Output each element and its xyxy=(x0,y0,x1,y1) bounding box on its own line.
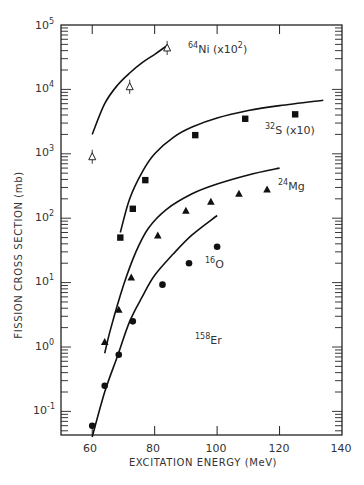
y-tick-label: 100 xyxy=(35,338,54,353)
circle-marker xyxy=(89,422,96,429)
theory-curves xyxy=(92,46,323,438)
axis-ticks xyxy=(61,25,342,435)
theory-curve xyxy=(120,100,323,232)
x-tick-labels: 60 80 100 120 140 xyxy=(83,442,352,455)
annotation-s32: 32S (x10) xyxy=(265,122,315,137)
x-tick-label: 60 xyxy=(83,442,97,455)
open-triangle-marker xyxy=(89,153,96,160)
y-tick-labels: 10-1 100 101 102 103 104 105 xyxy=(33,17,55,417)
annotation-o16: 16O xyxy=(205,256,224,271)
triangle-marker xyxy=(154,231,162,238)
y-tick-label: 101 xyxy=(35,273,54,288)
x-tick-label: 120 xyxy=(269,442,290,455)
x-tick-label: 100 xyxy=(206,442,227,455)
fission-cross-section-chart: 60 80 100 120 140 10-1 100 101 102 103 1… xyxy=(0,0,364,485)
square-marker xyxy=(192,132,198,138)
plot-frame xyxy=(61,25,342,435)
square-marker xyxy=(242,116,248,122)
triangle-marker xyxy=(263,185,271,192)
square-marker xyxy=(130,206,136,212)
y-tick-label: 102 xyxy=(35,209,54,224)
square-marker xyxy=(292,111,298,117)
triangle-marker xyxy=(127,274,135,281)
y-tick-label: 105 xyxy=(35,17,54,32)
annotation-er158: 158Er xyxy=(195,332,222,347)
annotation-mg24: 24Mg xyxy=(278,178,305,193)
square-marker xyxy=(142,177,148,183)
triangle-marker xyxy=(182,207,190,214)
x-tick-label: 140 xyxy=(331,442,352,455)
x-axis-title: EXCITATION ENERGY (MeV) xyxy=(129,457,277,468)
circle-marker xyxy=(159,281,166,288)
annotation-ni64: 64Ni (x102) xyxy=(188,41,247,56)
circle-marker xyxy=(101,382,108,389)
data-points xyxy=(89,41,299,429)
y-axis-title: FISSION CROSS SECTION (mb) xyxy=(13,171,24,338)
circle-marker xyxy=(186,260,193,267)
square-marker xyxy=(117,234,123,240)
circle-marker xyxy=(214,243,221,250)
open-triangle-marker xyxy=(126,83,133,90)
x-tick-label: 80 xyxy=(146,442,160,455)
circle-marker xyxy=(130,318,137,325)
y-tick-label: 10-1 xyxy=(33,402,55,417)
y-tick-label: 103 xyxy=(35,144,54,159)
circle-marker xyxy=(115,351,122,358)
y-tick-label: 104 xyxy=(35,80,54,95)
triangle-marker xyxy=(207,198,215,205)
plot-border xyxy=(61,25,342,435)
triangle-marker xyxy=(235,190,243,197)
